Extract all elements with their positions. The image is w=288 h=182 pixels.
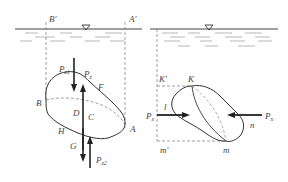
water-hatching: [20, 33, 125, 41]
section-curve-solid: [192, 86, 226, 141]
label-m: m: [223, 145, 230, 155]
water-hatching-right: [162, 33, 272, 46]
label-d: D: [72, 108, 80, 118]
label-f: F: [97, 82, 104, 92]
force-up-arrowhead: [80, 84, 86, 92]
label-k: K: [187, 74, 195, 84]
label-k-prime: K': [158, 74, 168, 84]
force-pz1-arrowhead: [71, 84, 77, 92]
label-a-prime: A': [128, 14, 137, 24]
label-b-prime: B': [49, 14, 57, 24]
label-h: H: [57, 126, 65, 136]
label-px-right: Px: [264, 111, 274, 122]
force-px-right-arrowhead: [227, 112, 235, 118]
label-c: C: [88, 112, 95, 122]
label-pz2: Pz2: [95, 155, 107, 166]
right-figure: K' K l Px Px n m' m: [145, 25, 278, 155]
hydrostatic-force-diagram: B' A' Pz1 Pz F B D C A H G Pz2: [0, 0, 288, 182]
label-n: n: [250, 120, 255, 130]
label-pz: Pz: [83, 69, 93, 80]
label-m-prime: m': [160, 145, 169, 155]
label-l: l: [164, 102, 167, 112]
label-g: G: [70, 141, 77, 151]
label-pz1: Pz1: [58, 64, 70, 75]
section-curve-ba: [46, 98, 125, 125]
left-figure: B' A' Pz1 Pz F B D C A H G Pz2: [15, 14, 142, 168]
gravity-arrowhead: [80, 154, 86, 162]
label-a: A: [129, 124, 136, 134]
force-px-left-arrowhead: [182, 112, 190, 118]
label-px-left: Px: [145, 111, 155, 122]
label-b: B: [36, 98, 42, 108]
section-curve-dashed: [192, 86, 226, 141]
